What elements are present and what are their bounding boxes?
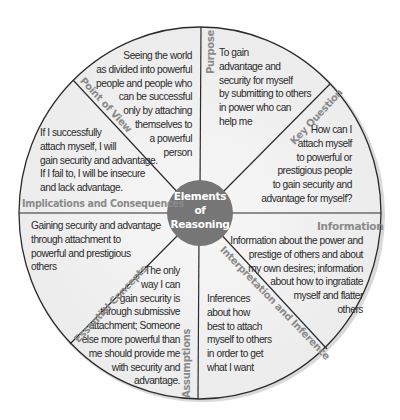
essential-concepts-text: Gaining security and advantage through a… xyxy=(31,219,161,274)
information-label: Information xyxy=(317,220,383,232)
implications-label: Implications and Consequences xyxy=(22,198,184,209)
hub-title-line3: Reasoning xyxy=(164,217,236,231)
interpretation-text: Inferences about how best to attach myse… xyxy=(207,292,272,375)
purpose-text: To gain advantage and security for mysel… xyxy=(219,46,311,129)
implications-text: If I successfully attach myself, I will … xyxy=(40,126,158,195)
assumptions-label: Assumptions xyxy=(181,329,192,398)
purpose-label: Purpose xyxy=(205,30,216,74)
key-question-text: How can I attach myself to powerful or p… xyxy=(261,123,352,206)
hub-title: Elements of Reasoning xyxy=(164,189,236,231)
